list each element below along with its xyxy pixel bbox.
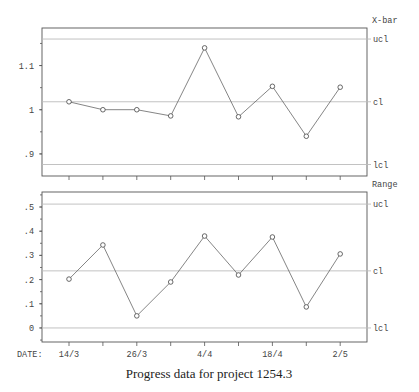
data-point-marker <box>304 134 309 139</box>
data-point-marker <box>270 84 275 89</box>
date-tick-label: 4/4 <box>197 350 212 360</box>
y-tick-label: .3 <box>24 251 34 261</box>
xbar-title: X-bar <box>372 16 398 26</box>
y-tick-label: .1 <box>24 300 34 310</box>
date-tick-labels: 14/326/34/418/42/5 <box>59 350 348 360</box>
data-point-marker <box>236 115 241 120</box>
data-point-marker <box>202 46 207 51</box>
data-point-marker <box>101 243 106 248</box>
date-tick-label: 18/4 <box>262 350 282 360</box>
y-tick-label: 1 <box>29 106 34 116</box>
date-axis-label: DATE: <box>17 350 43 360</box>
xbar-series-line <box>69 48 340 136</box>
control-chart: .911.1uclcllclX-bar 0.1.2.3.4.5uclcllclR… <box>0 0 419 392</box>
y-tick-label: .9 <box>24 150 34 160</box>
data-point-marker <box>168 114 173 119</box>
cl-label: cl <box>373 267 383 277</box>
data-point-marker <box>202 234 207 239</box>
data-point-marker <box>236 273 241 278</box>
y-tick-label: .5 <box>24 203 34 213</box>
ucl-label: ucl <box>373 35 388 45</box>
range-series-line <box>69 236 340 316</box>
y-tick-label: .2 <box>24 276 34 286</box>
date-tick-label: 2/5 <box>333 350 348 360</box>
data-point-marker <box>338 252 343 257</box>
data-point-marker <box>338 85 343 90</box>
chart-caption: Progress data for project 1254.3 <box>126 366 292 381</box>
data-point-marker <box>67 277 72 282</box>
data-point-marker <box>304 305 309 310</box>
lcl-label: lcl <box>373 161 388 171</box>
range-frame <box>42 192 367 342</box>
range-title: Range <box>372 180 398 190</box>
date-tick-label: 26/3 <box>127 350 147 360</box>
data-point-marker <box>67 99 72 104</box>
data-point-marker <box>101 107 106 112</box>
xbar-panel: .911.1uclcllclX-bar <box>19 16 398 180</box>
data-point-marker <box>135 314 140 319</box>
ucl-label: ucl <box>373 200 388 210</box>
y-tick-label: 0 <box>29 324 34 334</box>
y-tick-label: .4 <box>24 227 34 237</box>
date-tick-label: 14/3 <box>59 350 79 360</box>
y-tick-label: 1.1 <box>19 62 34 72</box>
range-panel: 0.1.2.3.4.5uclcllclRange <box>24 180 398 346</box>
cl-label: cl <box>373 98 383 108</box>
lcl-label: lcl <box>373 324 388 334</box>
data-point-marker <box>168 280 173 285</box>
data-point-marker <box>270 235 275 240</box>
data-point-marker <box>135 107 140 112</box>
